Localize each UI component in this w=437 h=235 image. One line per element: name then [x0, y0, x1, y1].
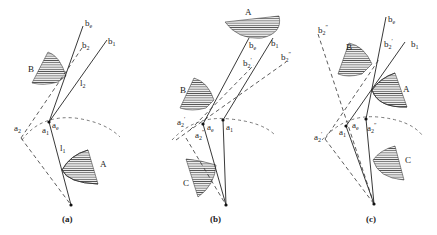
svg-text:be: be [249, 40, 257, 51]
ray-be [366, 17, 386, 119]
svg-text:a2′: a2′ [314, 131, 323, 143]
svg-text:b2′: b2′ [384, 38, 394, 50]
panel-a: be b2 b1 B l2 a2 a1 ae l1 A (a) [14, 18, 120, 224]
svg-text:B: B [346, 42, 352, 52]
svg-text:l1: l1 [60, 143, 66, 154]
obstacle-b [338, 43, 372, 76]
reachable-arc [22, 118, 120, 140]
obstacle-a [225, 16, 280, 38]
svg-text:C: C [183, 178, 189, 188]
svg-text:A: A [245, 7, 252, 17]
segment-a1-bottom [346, 126, 374, 204]
svg-text:b1: b1 [411, 39, 419, 50]
svg-text:b2: b2 [82, 40, 90, 51]
segment-a2-bottom [325, 139, 374, 204]
svg-text:a1: a1 [339, 127, 346, 138]
svg-text:ae: ae [352, 120, 359, 131]
ray-b1 [223, 38, 273, 120]
ray-be [203, 38, 249, 124]
panel-b: A be b1 b2′ b2″ B a2′ a2″ ae a1 C (b) [172, 7, 292, 224]
svg-text:a2″: a2″ [195, 129, 205, 141]
caption-b: (b) [210, 214, 221, 224]
svg-text:l2: l2 [80, 78, 86, 89]
svg-text:A: A [100, 159, 107, 169]
svg-text:a2′: a2′ [177, 116, 186, 128]
svg-text:b2′: b2′ [243, 57, 253, 69]
svg-text:C: C [405, 155, 411, 165]
svg-text:b1: b1 [108, 36, 116, 47]
svg-text:b2″: b2″ [281, 51, 292, 63]
svg-text:A: A [403, 84, 410, 94]
obstacle-c [373, 146, 404, 180]
figure: be b2 b1 B l2 a2 a1 ae l1 A (a) A be b1 … [0, 0, 437, 235]
svg-text:ae: ae [207, 122, 214, 133]
caption-c: (c) [366, 214, 376, 224]
svg-text:a1: a1 [42, 125, 49, 136]
panel-c: be b2″ b2′ b1 B A a2′ a1 ae a2″ C (c) [314, 14, 422, 224]
svg-text:be: be [85, 18, 93, 29]
segment-a1-bottom [223, 120, 226, 205]
svg-text:b1: b1 [271, 38, 279, 49]
svg-text:ae: ae [52, 120, 59, 131]
obstacle-c [186, 159, 216, 197]
svg-text:be: be [388, 14, 396, 25]
svg-text:a2: a2 [14, 123, 21, 134]
svg-text:B: B [28, 64, 34, 74]
obstacle-a [372, 73, 407, 107]
svg-text:b2″: b2″ [318, 24, 329, 36]
svg-text:a1: a1 [226, 122, 233, 133]
caption-a: (a) [62, 214, 73, 224]
obstacle-a [62, 150, 98, 184]
svg-text:a2″: a2″ [367, 122, 377, 134]
svg-text:B: B [180, 85, 186, 95]
